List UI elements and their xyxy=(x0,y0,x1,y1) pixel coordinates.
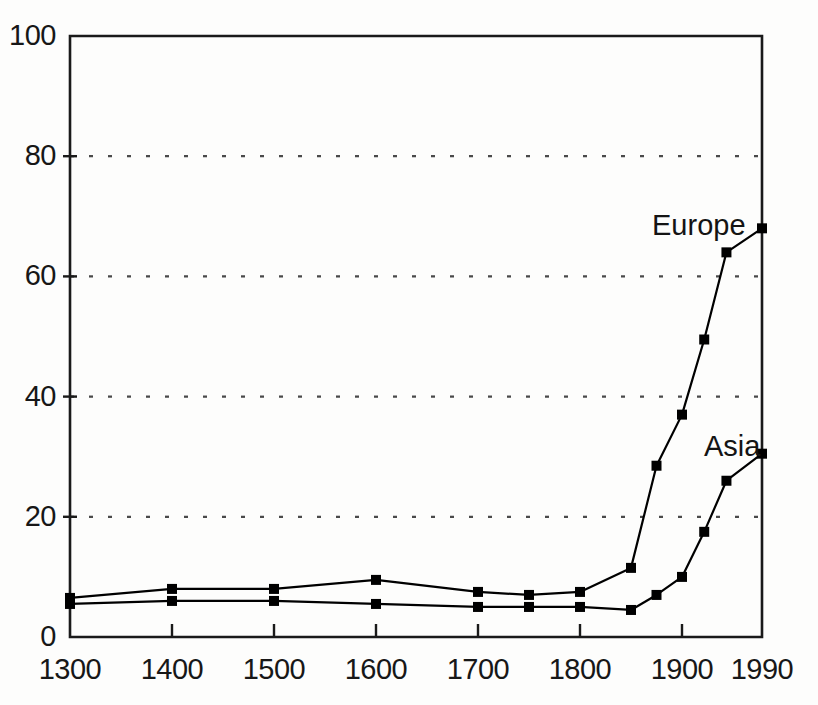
data-point-marker xyxy=(721,247,731,257)
y-tick-label-20: 20 xyxy=(0,502,56,531)
data-point-marker xyxy=(757,223,767,233)
y-tick-label-60: 60 xyxy=(0,261,56,290)
data-point-marker xyxy=(269,596,279,606)
data-point-marker xyxy=(699,335,709,345)
data-point-marker xyxy=(167,596,177,606)
data-point-marker xyxy=(699,527,709,537)
series-label-europe: Europe xyxy=(652,211,746,240)
x-axis-ticks-group xyxy=(172,624,682,637)
data-point-marker xyxy=(626,563,636,573)
data-point-marker xyxy=(473,587,483,597)
data-point-marker xyxy=(575,602,585,612)
data-point-marker xyxy=(677,410,687,420)
data-point-marker xyxy=(524,590,534,600)
series-lines-group xyxy=(70,228,762,610)
y-tick-label-40: 40 xyxy=(0,382,56,411)
series-markers-group xyxy=(65,223,767,615)
data-point-marker xyxy=(371,599,381,609)
data-point-marker xyxy=(721,476,731,486)
axis-frame-group xyxy=(70,36,762,637)
data-point-marker xyxy=(626,605,636,615)
y-tick-label-80: 80 xyxy=(0,141,56,170)
line-chart: 020406080100 130014001500160017001800190… xyxy=(0,0,818,705)
data-point-marker xyxy=(371,575,381,585)
data-point-marker xyxy=(652,461,662,471)
data-point-marker xyxy=(524,602,534,612)
data-point-marker xyxy=(652,590,662,600)
y-tick-label-100: 100 xyxy=(0,21,56,50)
data-point-marker xyxy=(575,587,585,597)
data-point-marker xyxy=(677,572,687,582)
series-line-europe xyxy=(70,228,762,598)
chart-plot-area xyxy=(0,0,818,705)
data-point-marker xyxy=(65,599,75,609)
series-label-asia: Asia xyxy=(704,432,760,461)
data-point-marker xyxy=(269,584,279,594)
data-point-marker xyxy=(473,602,483,612)
y-tick-label-0: 0 xyxy=(0,622,56,651)
data-point-marker xyxy=(167,584,177,594)
x-tick-label-1990: 1990 xyxy=(702,655,818,684)
